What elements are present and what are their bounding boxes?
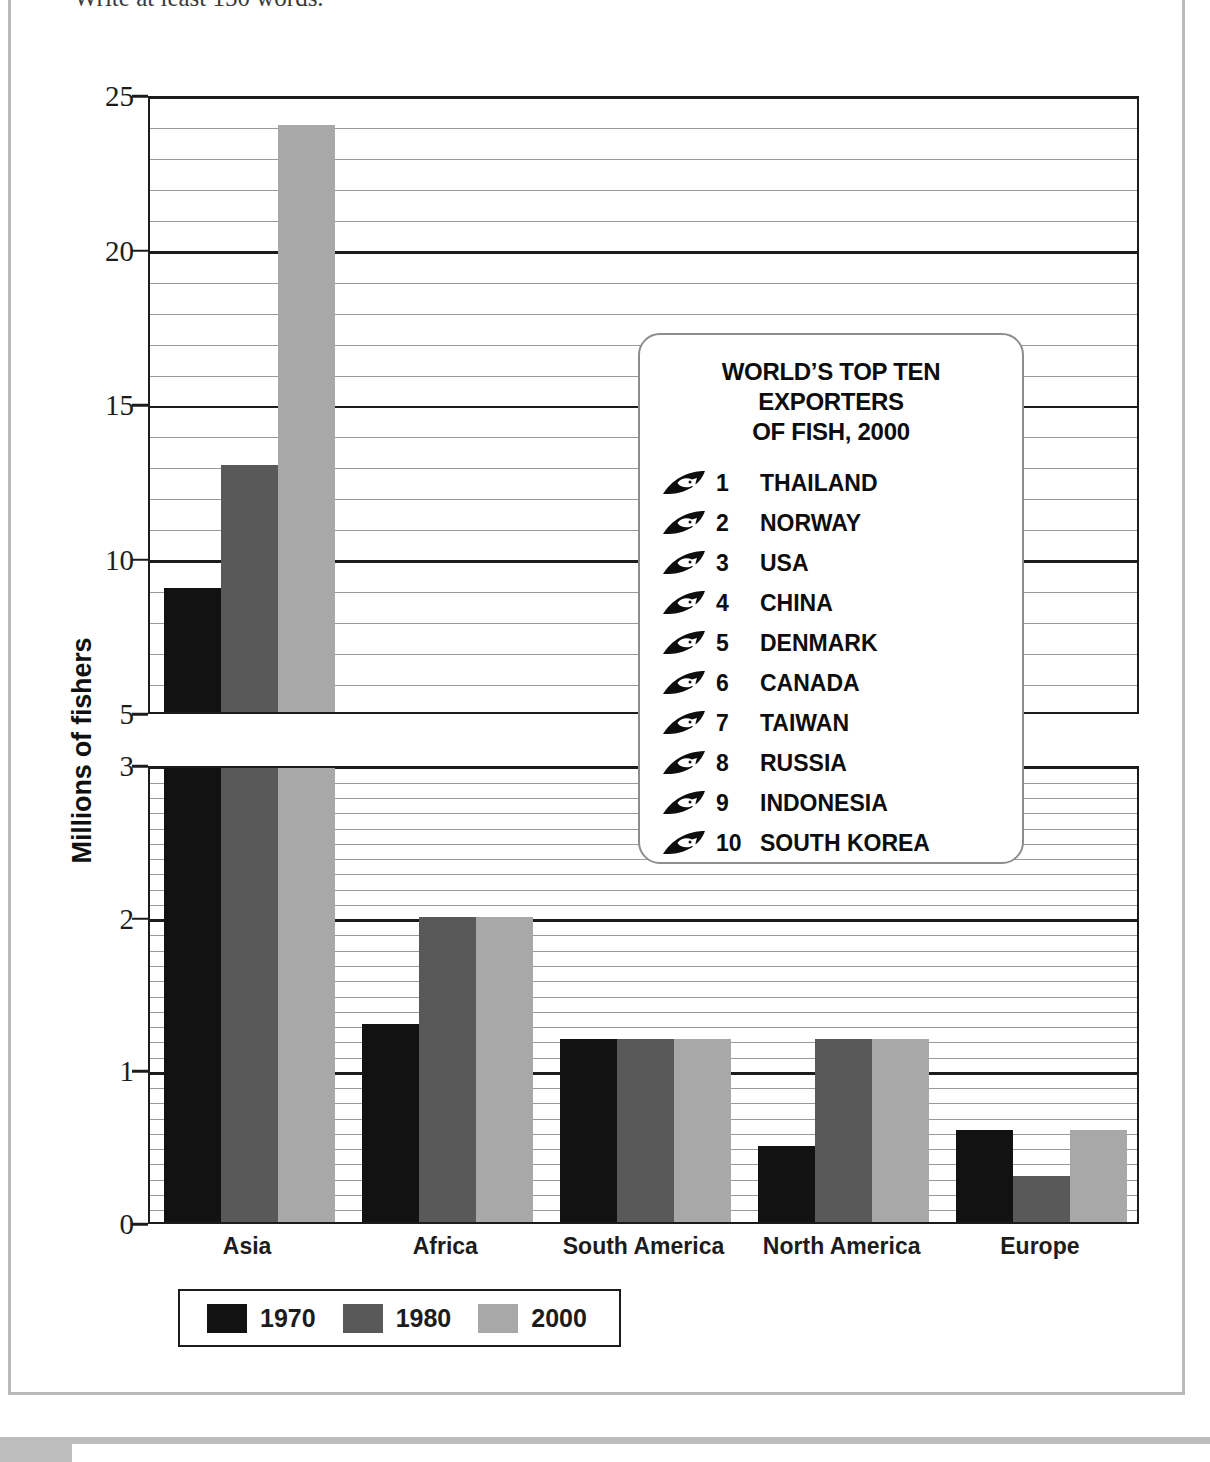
legend-item-1980: 1980 bbox=[343, 1304, 452, 1333]
y-tick-label: 20 bbox=[74, 234, 134, 267]
fish-icon bbox=[662, 590, 706, 616]
x-axis-label-asia: Asia bbox=[223, 1233, 272, 1260]
y-tick-mark bbox=[132, 713, 148, 716]
inset-rank: 6 bbox=[716, 670, 760, 697]
y-tick-label: 10 bbox=[74, 543, 134, 576]
inset-country: INDONESIA bbox=[760, 790, 888, 817]
legend-swatch-2000 bbox=[478, 1304, 518, 1333]
inset-country: CHINA bbox=[760, 590, 833, 617]
inset-row: 9INDONESIA bbox=[662, 783, 1022, 823]
bar-asia-1980 bbox=[221, 766, 278, 1222]
inset-title-line-1: WORLD’S TOP TEN EXPORTERS bbox=[654, 357, 1008, 417]
y-tick-mark bbox=[132, 404, 148, 407]
x-axis-label-north-america: North America bbox=[763, 1233, 921, 1260]
inset-country: NORWAY bbox=[760, 510, 861, 537]
bar-africa-1970 bbox=[362, 1024, 419, 1222]
inset-rank: 8 bbox=[716, 750, 760, 777]
x-axis-label-europe: Europe bbox=[1000, 1233, 1079, 1260]
inset-title: WORLD’S TOP TEN EXPORTERS OF FISH, 2000 bbox=[640, 357, 1022, 447]
bar-europe-1980 bbox=[1013, 1176, 1070, 1222]
inset-country: SOUTH KOREA bbox=[760, 830, 930, 857]
inset-row: 8RUSSIA bbox=[662, 743, 1022, 783]
inset-rank: 10 bbox=[716, 830, 760, 857]
x-axis-label-south-america: South America bbox=[563, 1233, 724, 1260]
inset-rank: 1 bbox=[716, 470, 760, 497]
y-tick-mark bbox=[132, 917, 148, 920]
bar-upper-asia-1970 bbox=[164, 588, 221, 712]
bar-south-america-1980 bbox=[617, 1039, 674, 1222]
y-tick-mark bbox=[132, 1223, 148, 1226]
inset-country: THAILAND bbox=[760, 470, 878, 497]
bar-asia-1970 bbox=[164, 766, 221, 1222]
inset-country-list: 1THAILAND2NORWAY3USA4CHINA5DENMARK6CANAD… bbox=[640, 463, 1022, 863]
legend-swatch-1980 bbox=[343, 1304, 383, 1333]
bar-asia-2000 bbox=[278, 766, 335, 1222]
y-tick-label: 0 bbox=[74, 1208, 134, 1241]
inset-country: DENMARK bbox=[760, 630, 878, 657]
fish-icon bbox=[662, 670, 706, 696]
bar-europe-2000 bbox=[1070, 1130, 1127, 1222]
inset-row: 4CHINA bbox=[662, 583, 1022, 623]
bar-upper-asia-2000 bbox=[278, 125, 335, 712]
bar-north-america-1980 bbox=[815, 1039, 872, 1222]
inset-rank: 9 bbox=[716, 790, 760, 817]
y-tick-mark bbox=[132, 1070, 148, 1073]
inset-row: 6CANADA bbox=[662, 663, 1022, 703]
legend-item-2000: 2000 bbox=[478, 1304, 587, 1333]
y-tick-label: 15 bbox=[74, 389, 134, 422]
fish-icon bbox=[662, 470, 706, 496]
y-tick-mark bbox=[132, 95, 148, 98]
bar-north-america-1970 bbox=[758, 1146, 815, 1222]
bar-south-america-1970 bbox=[560, 1039, 617, 1222]
inset-country: RUSSIA bbox=[760, 750, 847, 777]
inset-country: CANADA bbox=[760, 670, 860, 697]
legend-label-2000: 2000 bbox=[531, 1304, 587, 1333]
inset-rank: 2 bbox=[716, 510, 760, 537]
x-axis-label-africa: Africa bbox=[413, 1233, 478, 1260]
bar-north-america-2000 bbox=[872, 1039, 929, 1222]
inset-country: USA bbox=[760, 550, 809, 577]
gridline-major bbox=[150, 97, 1137, 100]
inset-row: 5DENMARK bbox=[662, 623, 1022, 663]
inset-country: TAIWAN bbox=[760, 710, 849, 737]
top-exporters-inset: WORLD’S TOP TEN EXPORTERS OF FISH, 2000 … bbox=[638, 333, 1024, 864]
inset-rank: 7 bbox=[716, 710, 760, 737]
fish-icon bbox=[662, 750, 706, 776]
fish-icon bbox=[662, 710, 706, 736]
inset-rank: 5 bbox=[716, 630, 760, 657]
inset-row: 3USA bbox=[662, 543, 1022, 583]
legend-item-1970: 1970 bbox=[207, 1304, 316, 1333]
y-tick-mark bbox=[132, 765, 148, 768]
inset-row: 2NORWAY bbox=[662, 503, 1022, 543]
fish-icon bbox=[662, 830, 706, 856]
inset-rank: 3 bbox=[716, 550, 760, 577]
inset-row: 1THAILAND bbox=[662, 463, 1022, 503]
y-tick-label: 3 bbox=[74, 750, 134, 783]
y-tick-label: 1 bbox=[74, 1055, 134, 1088]
y-tick-mark bbox=[132, 558, 148, 561]
fish-icon bbox=[662, 790, 706, 816]
fish-icon bbox=[662, 510, 706, 536]
y-tick-label: 5 bbox=[74, 698, 134, 731]
inset-rank: 4 bbox=[716, 590, 760, 617]
y-tick-mark bbox=[132, 249, 148, 252]
legend-label-1970: 1970 bbox=[260, 1304, 316, 1333]
legend-swatch-1970 bbox=[207, 1304, 247, 1333]
inset-row: 10SOUTH KOREA bbox=[662, 823, 1022, 863]
y-tick-label: 2 bbox=[74, 902, 134, 935]
bar-south-america-2000 bbox=[674, 1039, 731, 1222]
bar-upper-asia-1980 bbox=[221, 465, 278, 712]
inset-row: 7TAIWAN bbox=[662, 703, 1022, 743]
chart-legend: 197019802000 bbox=[178, 1289, 621, 1347]
fish-icon bbox=[662, 550, 706, 576]
bar-africa-1980 bbox=[419, 917, 476, 1222]
bar-africa-2000 bbox=[476, 917, 533, 1222]
inset-title-line-2: OF FISH, 2000 bbox=[654, 417, 1008, 447]
bar-europe-1970 bbox=[956, 1130, 1013, 1222]
y-tick-label: 25 bbox=[74, 80, 134, 113]
fishers-bar-chart: Millions of fishers 2520151053210 AsiaAf… bbox=[0, 0, 1210, 1462]
legend-label-1980: 1980 bbox=[396, 1304, 452, 1333]
fish-icon bbox=[662, 630, 706, 656]
